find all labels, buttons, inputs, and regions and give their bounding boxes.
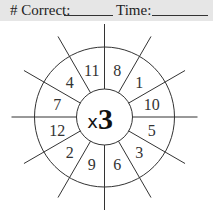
spoke-line bbox=[58, 141, 91, 197]
wheel-number: 2 bbox=[66, 144, 74, 161]
wheel-number: 3 bbox=[135, 144, 143, 161]
wheel-number: 11 bbox=[84, 62, 99, 79]
multiply-sign: x bbox=[87, 111, 98, 132]
wheel-number: 10 bbox=[144, 96, 160, 113]
wheel-number: 7 bbox=[53, 96, 61, 113]
wheel-number: 5 bbox=[148, 122, 156, 139]
multiplication-wheel: 811053692127411 x 3 bbox=[0, 0, 213, 222]
wheel-number: 1 bbox=[135, 74, 143, 91]
multiplier-value: 3 bbox=[98, 102, 113, 135]
wheel-number: 9 bbox=[88, 156, 96, 173]
wheel-number: 6 bbox=[113, 156, 121, 173]
wheel-number: 8 bbox=[113, 62, 121, 79]
wheel-number: 4 bbox=[66, 74, 74, 91]
wheel-number: 12 bbox=[49, 122, 65, 139]
